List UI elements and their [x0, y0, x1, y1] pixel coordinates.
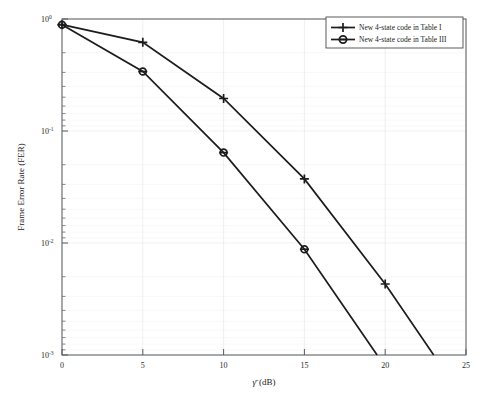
y-axis-label: Frame Error Rate (FER)	[16, 143, 26, 231]
x-axis-label: γ̄(dB)	[252, 377, 275, 387]
legend[interactable]: New 4-state code in Table I New 4-state …	[326, 17, 463, 48]
x-tick-label-10: 10	[220, 361, 228, 370]
y-tick-exponent-m1: -1	[49, 126, 54, 132]
y-tick-exponent-m3: -3	[49, 350, 54, 356]
x-tick-label-5: 5	[141, 361, 145, 370]
x-tick-label-0: 0	[60, 361, 64, 370]
x-tick-label-20: 20	[381, 361, 389, 370]
svg-text:γ̄(dB): γ̄(dB)	[252, 377, 275, 387]
x-tick-label-15: 15	[300, 361, 308, 370]
x-axis-label-unit: (dB)	[259, 377, 276, 387]
fer-chart: 100 10-1 10-2 10-3 0 5 10 15 20 25 Frame…	[0, 0, 487, 397]
legend-label-table-iii: New 4-state code in Table III	[359, 35, 447, 44]
legend-label-table-i: New 4-state code in Table I	[359, 23, 442, 32]
figure-container: 100 10-1 10-2 10-3 0 5 10 15 20 25 Frame…	[0, 0, 487, 397]
y-tick-exponent-0: 0	[49, 14, 52, 20]
x-tick-label-25: 25	[462, 361, 470, 370]
y-tick-exponent-m2: -2	[49, 238, 54, 244]
